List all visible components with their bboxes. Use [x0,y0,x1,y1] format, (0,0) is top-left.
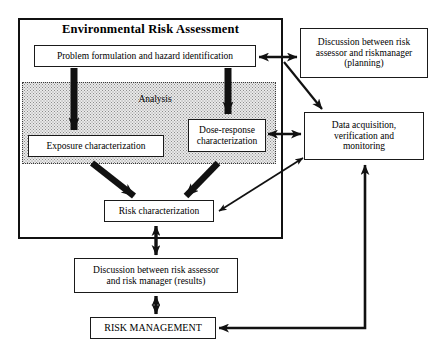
node-risk-characterization-label: Risk characterization [105,206,213,217]
node-risk-management-label: RISK MANAGEMENT [91,322,215,334]
diagram-canvas: Environmental Risk Assessment Problem fo… [0,0,440,357]
arrow-risk-characterization-to-data-acquisition [219,158,303,211]
analysis-label-text: Analysis [120,94,190,105]
node-problem-formulation[interactable]: Problem formulation and hazard identific… [34,45,256,67]
node-exposure-characterization-label: Exposure characterization [29,141,163,152]
node-risk-characterization[interactable]: Risk characterization [104,200,214,222]
node-discussion-results[interactable]: Discussion between risk assessor and ris… [74,258,238,293]
node-discussion-planning[interactable]: Discussion between risk assessor and ris… [300,28,428,78]
node-discussion-planning-label: Discussion between risk assessor and ris… [301,37,427,70]
node-risk-management[interactable]: RISK MANAGEMENT [90,317,216,339]
node-dose-response-characterization-label: Dose-response characterization [189,125,265,147]
node-discussion-results-label: Discussion between risk assessor and ris… [75,265,237,287]
arrow-dose-response-to-risk-characterization [186,163,218,196]
node-analysis-label: Analysis [120,90,190,108]
arrow-risk-management-to-data-acquisition [219,165,365,328]
page-title: Environmental Risk Assessment [18,22,283,37]
node-data-acquisition-label: Data acquisition, verification and monit… [305,120,423,153]
node-exposure-characterization[interactable]: Exposure characterization [28,135,164,157]
arrow-exposure-to-risk-characterization [92,163,134,196]
node-dose-response-characterization[interactable]: Dose-response characterization [188,119,266,152]
node-data-acquisition[interactable]: Data acquisition, verification and monit… [304,112,424,160]
node-problem-formulation-label: Problem formulation and hazard identific… [35,51,255,62]
